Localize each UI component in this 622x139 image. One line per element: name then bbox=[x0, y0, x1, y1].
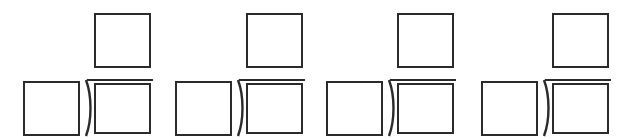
division-problem-1 bbox=[23, 0, 173, 139]
dividend-box[interactable] bbox=[552, 83, 609, 134]
divisor-box[interactable] bbox=[326, 81, 383, 136]
quotient-box[interactable] bbox=[397, 13, 454, 68]
division-problem-3 bbox=[326, 0, 476, 139]
divisor-box[interactable] bbox=[175, 81, 232, 136]
quotient-box[interactable] bbox=[552, 13, 609, 68]
division-problem-2 bbox=[175, 0, 325, 139]
dividend-box[interactable] bbox=[94, 83, 151, 134]
divisor-box[interactable] bbox=[481, 81, 538, 136]
division-problem-4 bbox=[481, 0, 622, 139]
quotient-box[interactable] bbox=[246, 13, 303, 68]
quotient-box[interactable] bbox=[94, 13, 151, 68]
divisor-box[interactable] bbox=[23, 81, 80, 136]
dividend-box[interactable] bbox=[397, 83, 454, 134]
dividend-box[interactable] bbox=[246, 83, 303, 134]
